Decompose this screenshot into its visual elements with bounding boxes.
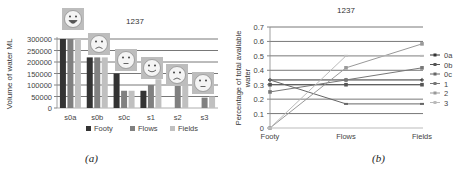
y-tick-label: 0.1 bbox=[254, 110, 264, 119]
svg-text:2: 2 bbox=[444, 89, 448, 98]
y-tick-label: 0.3 bbox=[254, 81, 264, 90]
y-tick-label: 0.7 bbox=[254, 23, 264, 32]
bar-flows bbox=[148, 85, 154, 108]
y-tick-label: 100000 bbox=[27, 81, 52, 90]
neutral-face-icon bbox=[192, 72, 214, 94]
svg-text:Flows: Flows bbox=[138, 124, 158, 133]
svg-text:0b: 0b bbox=[444, 61, 452, 70]
y-tick-label: 200000 bbox=[27, 58, 52, 67]
y-tick-label: 0.5 bbox=[254, 52, 264, 61]
smile-face-icon bbox=[141, 57, 163, 79]
bar-footy bbox=[114, 74, 120, 109]
bar-footy bbox=[140, 91, 146, 108]
series-3 bbox=[268, 55, 424, 129]
bar-chart: 1237050000100000150000200000250000300000… bbox=[0, 0, 235, 186]
bar-flows bbox=[121, 91, 127, 108]
svg-text:0a: 0a bbox=[444, 51, 453, 60]
svg-text:Footy: Footy bbox=[94, 124, 113, 133]
x-tick-label: s0a bbox=[64, 113, 77, 122]
y-tick-label: 0.4 bbox=[254, 66, 264, 75]
bar-chart-panel: 1237050000100000150000200000250000300000… bbox=[0, 0, 235, 186]
legend-item-1: 1 bbox=[430, 80, 448, 89]
svg-text:Fields: Fields bbox=[178, 124, 198, 133]
bar-fields bbox=[155, 79, 161, 108]
y-tick-label: 0.2 bbox=[254, 95, 264, 104]
y-tick-label: 0 bbox=[48, 104, 52, 113]
bar-fields bbox=[75, 39, 81, 108]
bar-flows bbox=[67, 39, 73, 108]
x-tick-label: s0c bbox=[118, 113, 130, 122]
legend-item-2: 2 bbox=[430, 89, 448, 98]
y-tick-label: 0.6 bbox=[254, 37, 264, 46]
caption-a: (a) bbox=[85, 152, 98, 164]
sad-face-icon bbox=[88, 33, 110, 55]
x-tick-label: Fields bbox=[412, 132, 432, 141]
svg-text:3: 3 bbox=[444, 99, 448, 108]
y-tick-label: 150000 bbox=[27, 70, 52, 79]
bar-flows bbox=[175, 85, 181, 108]
svg-text:0c: 0c bbox=[444, 70, 452, 79]
big-smile-face-icon bbox=[62, 8, 84, 30]
bar-flows bbox=[202, 98, 208, 108]
x-tick-label: Footy bbox=[261, 132, 280, 141]
bar-fields bbox=[182, 85, 188, 108]
legend-item-footy: Footy bbox=[86, 124, 113, 133]
x-tick-label: s0b bbox=[91, 113, 103, 122]
legend-item-3: 3 bbox=[430, 99, 448, 108]
legend-item-flows: Flows bbox=[130, 124, 158, 133]
y-tick-label: 300000 bbox=[27, 35, 52, 44]
series-0b bbox=[268, 83, 424, 87]
y-axis-label: Volume of water ML bbox=[5, 38, 14, 109]
y-tick-label: 50000 bbox=[31, 93, 52, 102]
legend-item-fields: Fields bbox=[170, 124, 198, 133]
legend-item-0c: 0c bbox=[430, 70, 452, 79]
x-tick-label: s2 bbox=[174, 113, 182, 122]
bar-footy bbox=[60, 39, 66, 108]
y-axis-label: Percentage of total available bbox=[235, 31, 243, 126]
line-chart: 123700.10.20.30.40.50.60.7Percentage of … bbox=[235, 0, 469, 186]
svg-text:1: 1 bbox=[444, 80, 448, 89]
x-tick-label: s3 bbox=[201, 113, 209, 122]
line-chart-panel: 123700.10.20.30.40.50.60.7Percentage of … bbox=[235, 0, 469, 186]
x-tick-label: Flows bbox=[336, 132, 356, 141]
bar-footy bbox=[87, 57, 93, 108]
bar-flows bbox=[94, 57, 100, 108]
bar-fields bbox=[102, 57, 108, 108]
bar-fields bbox=[129, 91, 135, 108]
series-0c bbox=[268, 79, 424, 105]
neutral-face-icon bbox=[115, 49, 137, 71]
chart-title: 1237 bbox=[126, 17, 144, 26]
legend-item-0a: 0a bbox=[430, 51, 453, 60]
y-axis-label-line2: water bbox=[243, 68, 252, 88]
x-tick-label: s1 bbox=[147, 113, 155, 122]
y-tick-label: 250000 bbox=[27, 47, 52, 56]
legend-item-0b: 0b bbox=[430, 61, 452, 70]
chart-title: 1237 bbox=[337, 6, 355, 15]
bar-fields bbox=[209, 97, 215, 109]
caption-b: (b) bbox=[372, 152, 385, 164]
sad-face-icon bbox=[166, 64, 188, 86]
